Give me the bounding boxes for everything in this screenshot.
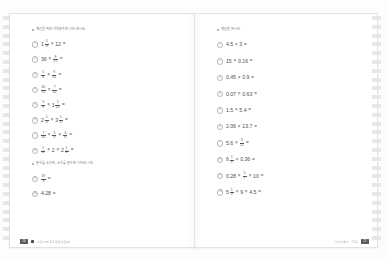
operator: × <box>50 118 53 123</box>
binding-hole <box>372 174 381 178</box>
fraction-denominator: 10 <box>41 136 45 139</box>
binding-hole <box>372 183 381 187</box>
problem-row[interactable]: 104.28= <box>32 186 184 201</box>
number: 0.9 <box>242 75 249 80</box>
problem-row[interactable]: 6214×313= <box>32 113 184 128</box>
operator: × <box>47 73 50 78</box>
problem-number: 10 <box>217 189 223 195</box>
number: 2.06 <box>226 124 236 129</box>
bullet-icon <box>217 29 219 31</box>
problem-row[interactable]: 1158×12= <box>32 37 184 52</box>
operator: × <box>58 133 61 138</box>
right-footer-text: 정답과 풀이 · 15쪽 <box>334 240 358 244</box>
number: 3 <box>239 42 242 47</box>
operator: = <box>65 118 68 123</box>
problem-row[interactable]: 356×920= <box>32 67 184 82</box>
problem-expression: 2.06×13.7= <box>226 124 257 129</box>
problem-row[interactable]: 90.28×57×10= <box>217 168 369 184</box>
fraction: 2021 <box>41 86 45 94</box>
operator: = <box>254 92 257 97</box>
problem-expression: 710×56×38= <box>41 132 73 140</box>
binding-hole <box>372 113 381 117</box>
left-footer-text: 초등수학 6-1 쌍둥이 문제 <box>37 240 70 244</box>
number: 2 <box>52 148 55 153</box>
binding-hole <box>372 192 381 196</box>
operator: = <box>58 73 61 78</box>
problem-number: 4 <box>217 91 223 97</box>
problem-row[interactable]: 236×827= <box>32 52 184 67</box>
problem-row[interactable]: 30.45×0.9= <box>217 70 369 86</box>
binding-hole <box>372 157 381 161</box>
number: 13.7 <box>242 124 252 129</box>
problem-row[interactable]: 9198= <box>32 171 184 186</box>
fraction-denominator: 7 <box>243 177 245 180</box>
problem-expression: 5.6×512= <box>226 139 249 147</box>
operator: × <box>48 57 51 62</box>
operator: = <box>58 88 61 93</box>
mixed-number: 313 <box>55 116 63 124</box>
problem-row[interactable]: 62.06×13.7= <box>217 119 369 135</box>
fraction-denominator: 8 <box>64 136 66 139</box>
problem-expression: 198= <box>41 175 51 183</box>
number: 12 <box>55 42 61 47</box>
section-heading: 계산을 하시오. <box>217 28 369 31</box>
fraction: 56 <box>52 132 56 140</box>
problem-row[interactable]: 75.6×512= <box>217 135 369 151</box>
number: 15 <box>226 59 232 64</box>
binding-hole <box>372 34 381 38</box>
fraction-denominator: 4 <box>230 161 232 164</box>
fraction: 58 <box>45 40 49 48</box>
binding-hole <box>372 130 381 134</box>
problem-row[interactable]: 42021×712= <box>32 82 184 97</box>
section-heading: 분수를 소수로, 소수를 분수로 나타내시오. <box>32 162 184 165</box>
operator: × <box>50 42 53 47</box>
mixed-number: 614 <box>226 156 234 164</box>
fraction: 827 <box>53 56 57 64</box>
operator: = <box>246 141 249 146</box>
problem-row[interactable]: 7710×56×38= <box>32 128 184 143</box>
problem-row[interactable]: 8614×0.36= <box>217 152 369 168</box>
operator: × <box>237 92 240 97</box>
left-page-footer: 26 초등수학 6-1 쌍둥이 문제 <box>20 238 71 245</box>
problem-row[interactable]: 215×0.16= <box>217 53 369 69</box>
problem-row[interactable]: 14.5×3= <box>217 37 369 53</box>
problem-number: 5 <box>32 102 38 108</box>
right-page-footer: 정답과 풀이 · 15쪽 27 <box>334 238 370 245</box>
problem-row[interactable]: 51.5×5.4= <box>217 102 369 118</box>
mixed-whole-part: 6 <box>226 157 229 162</box>
problem-row[interactable]: 558×1115= <box>32 98 184 113</box>
number: 1.5 <box>226 108 233 113</box>
binding-hole <box>372 210 381 214</box>
page-number-left: 26 <box>20 239 28 245</box>
fraction-numerator: 5 <box>42 71 44 74</box>
problem-number: 8 <box>32 148 38 154</box>
left-page-sections: 계산을 하여 기약분수로 나타내시오.1158×12=236×827=356×9… <box>32 28 184 202</box>
binding-hole <box>372 69 381 73</box>
mixed-number: 513 <box>226 189 234 197</box>
fraction-denominator: 6 <box>42 76 44 79</box>
number: 9 <box>240 190 243 195</box>
mixed-whole-part: 2 <box>61 148 64 153</box>
operator: × <box>235 43 238 48</box>
fraction-numerator: 5 <box>243 172 245 175</box>
problem-row[interactable]: 10513×9×4.5= <box>217 184 369 200</box>
operator: = <box>70 148 73 153</box>
section-heading-text: 계산을 하시오. <box>221 28 241 31</box>
number: 0.36 <box>240 157 250 162</box>
binding-hole <box>372 104 381 108</box>
operator: × <box>47 148 50 153</box>
number: 5.6 <box>226 141 233 146</box>
binding-hole <box>372 51 381 55</box>
problem-number: 3 <box>32 72 38 78</box>
publisher-logo-icon <box>31 240 34 243</box>
problem-row[interactable]: 814×2×212= <box>32 143 184 158</box>
mixed-whole-part: 2 <box>41 118 44 123</box>
fraction: 198 <box>41 175 45 183</box>
operator: × <box>233 59 236 64</box>
operator: = <box>62 42 65 47</box>
fraction-numerator: 9 <box>53 71 55 74</box>
scanned-workbook-image: 계산을 하여 기약분수로 나타내시오.1158×12=236×827=356×9… <box>0 0 387 260</box>
problem-row[interactable]: 40.07×0.63= <box>217 86 369 102</box>
section-heading: 계산을 하여 기약분수로 나타내시오. <box>32 28 184 31</box>
number: 0.16 <box>238 59 248 64</box>
